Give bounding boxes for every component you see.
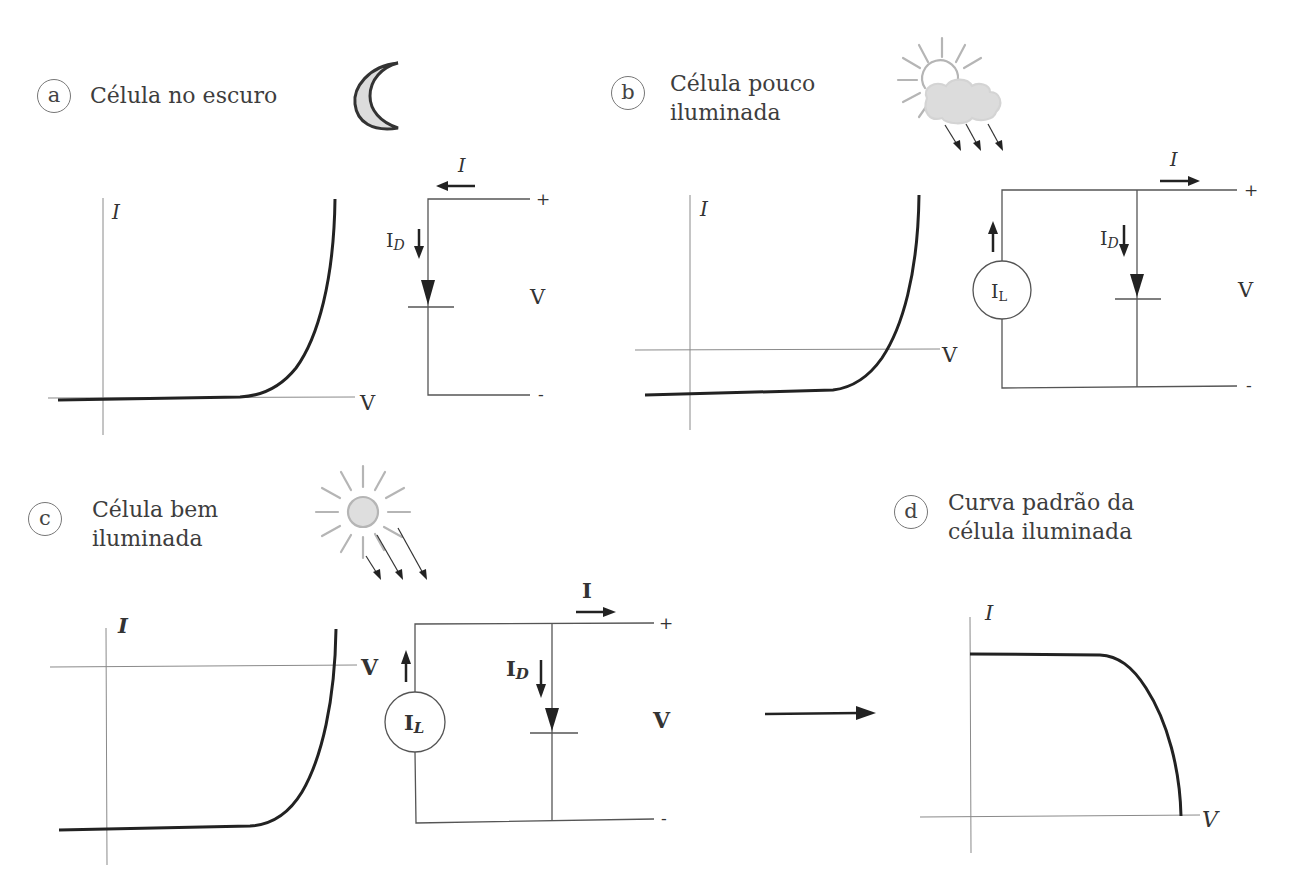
y-axis-label: I [984, 601, 994, 625]
y-axis [970, 617, 971, 853]
iv-curve-standard: I V [920, 601, 1220, 853]
panel-d-graphics: I V [0, 0, 1304, 894]
x-axis [920, 815, 1200, 817]
iv-curve [970, 654, 1181, 816]
x-axis-label: V [1202, 807, 1220, 832]
